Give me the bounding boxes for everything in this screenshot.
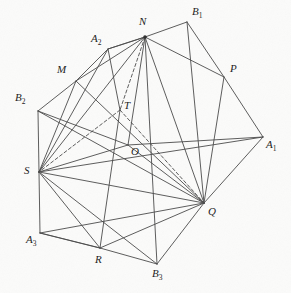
edge-solid-Q-B3 <box>157 203 204 264</box>
vertex-label-A2: A2 <box>91 33 101 47</box>
vertex-label-P: P <box>230 63 237 74</box>
edge-solid-P-A1 <box>224 77 263 137</box>
edge-solid-N-M <box>76 37 145 81</box>
vertex-label-S: S <box>24 165 30 176</box>
edge-solid-O-Q <box>128 145 204 203</box>
vertex-label-R: R <box>95 254 102 265</box>
edge-solid-B3-R <box>100 248 157 264</box>
edge-solid-B2-Q <box>38 111 204 203</box>
edge-solid-B1-P <box>187 22 224 77</box>
vertex-label-T: T <box>124 100 130 111</box>
vertex-label-A3: A3 <box>26 234 36 248</box>
vertex-label-B2: B2 <box>15 92 25 106</box>
vertex-dot-layer <box>143 35 147 39</box>
vertex-label-subscript-B3: 3 <box>159 273 163 282</box>
vertex-label-M: M <box>57 64 66 75</box>
figure-canvas <box>0 0 291 293</box>
vertex-label-subscript-B1: 1 <box>199 11 203 20</box>
edge-solid-N-A2 <box>108 37 145 49</box>
edge-solid-S-Q <box>39 172 204 203</box>
vertex-label-subscript-A3: 3 <box>33 239 37 248</box>
vertex-dot-N <box>143 35 147 39</box>
dashed-edge-layer <box>39 37 204 203</box>
edge-solid-N-B1 <box>145 22 187 37</box>
edge-solid-A2-T <box>108 49 120 110</box>
vertex-label-B1: B1 <box>192 6 202 20</box>
edge-solid-B1-Q <box>187 22 204 203</box>
solid-edge-layer <box>38 22 263 264</box>
vertex-label-A1: A1 <box>266 139 276 153</box>
edge-solid-S-R <box>39 172 100 248</box>
vertex-label-O: O <box>131 146 139 157</box>
edge-solid-N-B3 <box>145 37 157 264</box>
edge-solid-S-B2 <box>38 111 39 172</box>
edge-solid-A3-R <box>40 233 100 248</box>
vertex-label-N: N <box>139 16 146 27</box>
vertex-label-B3: B3 <box>152 268 162 282</box>
edge-solid-A3-S <box>39 172 40 233</box>
geometry-figure: NB1A2MPB2TA1OSQA3RB3 <box>0 0 291 293</box>
edge-solid-R-Q <box>100 203 204 248</box>
edge-solid-M-A2 <box>76 49 108 81</box>
vertex-label-subscript-B2: 2 <box>22 97 26 106</box>
edge-solid-S-B3 <box>39 172 157 264</box>
vertex-label-Q: Q <box>208 206 216 217</box>
edge-solid-A2-S <box>39 49 108 172</box>
vertex-label-subscript-A2: 2 <box>98 38 102 47</box>
vertex-label-subscript-A1: 1 <box>273 144 277 153</box>
edge-solid-A3-Q <box>40 203 204 233</box>
